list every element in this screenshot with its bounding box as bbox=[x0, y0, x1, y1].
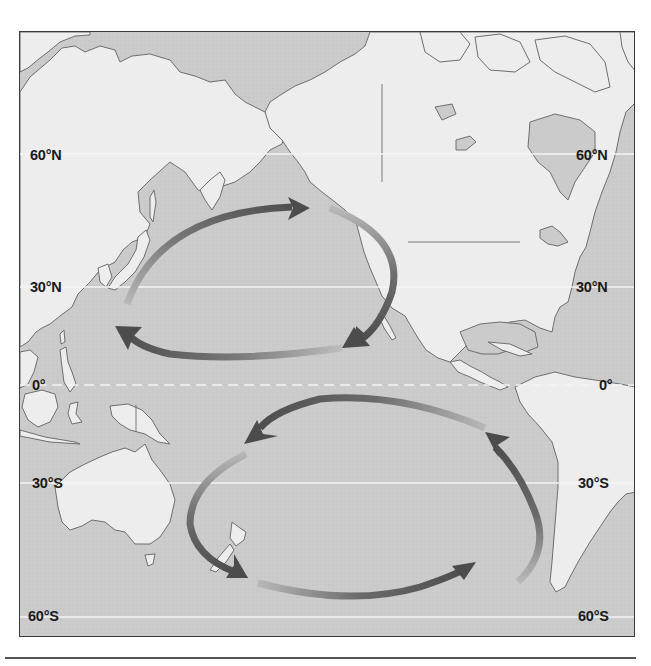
lat-label-left-60s: 60°S bbox=[28, 609, 59, 624]
lat-label-right-30n: 30°N bbox=[576, 280, 608, 295]
lat-label-left-60n: 60°N bbox=[30, 148, 62, 163]
lat-label-left-30n: 30°N bbox=[30, 280, 62, 295]
lat-label-right-30s: 30°S bbox=[578, 476, 609, 491]
lat-label-right-60n: 60°N bbox=[576, 148, 608, 163]
lat-label-left-30s: 30°S bbox=[32, 476, 63, 491]
map-canvas bbox=[20, 32, 635, 637]
pacific-gyre-map: 60°N 30°N 0° 30°S 60°S 60°N 30°N 0° 30°S… bbox=[19, 31, 635, 637]
lat-label-right-60s: 60°S bbox=[578, 609, 609, 624]
lat-label-right-0: 0° bbox=[599, 378, 612, 393]
lat-label-left-0: 0° bbox=[32, 378, 45, 393]
gulf-of-mexico bbox=[460, 322, 538, 354]
bottom-divider bbox=[5, 657, 636, 659]
